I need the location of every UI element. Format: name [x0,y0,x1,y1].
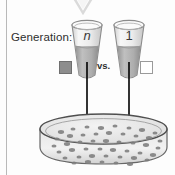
colony [153,132,158,135]
colony [131,156,137,160]
colony [85,160,91,164]
colony [114,162,119,165]
colony [55,138,60,141]
cut-off-tube-tip-icon [66,0,100,16]
colony [98,148,103,151]
colony [138,152,143,155]
colony [134,135,139,138]
colony [125,150,130,153]
colony [84,148,89,151]
tube-label-n: n [68,28,106,43]
generation-comparison-figure: Generation: [0,0,175,175]
colony [158,140,163,143]
colony [146,136,152,140]
colony [63,157,68,160]
colony [100,161,105,164]
colony [145,159,150,162]
tube-label-1: 1 [110,28,148,43]
colony [52,145,57,148]
generation-label: Generation: [11,31,72,43]
colony [139,128,145,132]
colony [94,133,99,136]
colony [72,162,77,165]
colony [156,147,161,150]
colony [58,130,64,134]
colony [78,141,83,144]
colony [131,142,136,145]
vs-label: vs. [97,60,110,71]
colony [113,125,118,128]
colony [77,156,82,159]
colony [103,139,109,143]
colony [89,154,95,158]
colony [85,126,90,129]
colony [81,134,86,137]
colony [64,142,70,146]
colony [127,127,132,130]
colony [57,151,62,154]
colony [67,134,73,138]
left-border-rule [6,0,7,175]
colony [98,126,104,130]
colony [110,148,116,152]
colony [117,141,122,144]
colony [104,155,109,158]
colony [106,131,112,135]
colony [91,140,96,143]
colony [118,156,123,159]
colony [143,143,149,147]
petri-dish [38,112,169,172]
empty-square-marker [140,61,153,74]
colony [69,148,75,152]
colony [127,162,133,166]
filled-square-marker [59,61,72,74]
colony [150,153,156,157]
colony [121,133,126,136]
colony [71,128,76,131]
